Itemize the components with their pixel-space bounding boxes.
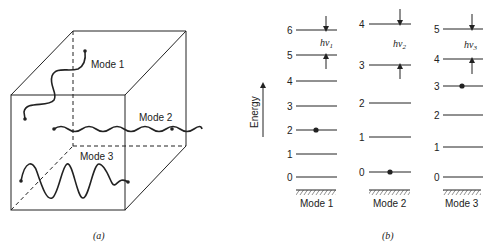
mode-2-label: Mode 2 (139, 112, 173, 123)
svg-text:0: 0 (434, 172, 440, 183)
svg-text:2: 2 (359, 98, 365, 109)
energy-axis: Energy (249, 85, 263, 137)
mode-2-levels (369, 9, 411, 172)
svg-text:4: 4 (359, 19, 365, 30)
svg-text:2: 2 (287, 125, 293, 136)
mode-1-column-label: Mode 1 (300, 198, 334, 209)
caption-a: (a) (93, 230, 105, 242)
svg-text:1: 1 (434, 142, 440, 153)
mode-3-label: Mode 3 (80, 151, 114, 162)
mode-1-wave (23, 49, 87, 121)
svg-text:5: 5 (434, 24, 440, 35)
figure-canvas: Mode 1 Mode 2 Mode 3 (a) Energy 0 1 2 3 … (0, 0, 493, 251)
mode-2-ground-hatch (369, 190, 410, 195)
svg-text:1: 1 (359, 132, 365, 143)
mode-3-levels (443, 14, 483, 177)
mode-3-level-numbers: 0 1 2 3 4 5 (434, 24, 440, 183)
mode-3-quantum: hν3 (464, 39, 477, 52)
mode-1-occupied-dot (313, 127, 318, 132)
svg-text:4: 4 (434, 54, 440, 65)
svg-text:3: 3 (359, 60, 365, 71)
svg-text:5: 5 (287, 50, 293, 61)
svg-text:0: 0 (359, 167, 365, 178)
mode-1-quantum: hν1 (320, 37, 333, 50)
mode-1-ground-hatch (296, 190, 336, 195)
energy-axis-label: Energy (249, 96, 260, 128)
svg-text:0: 0 (287, 172, 293, 183)
mode-1-level-numbers: 0 1 2 3 4 5 6 (287, 25, 293, 183)
mode-2-column-label: Mode 2 (373, 198, 407, 209)
mode-2-wave (52, 127, 202, 132)
mode-3-occupied-dot (459, 83, 464, 88)
svg-text:3: 3 (287, 101, 293, 112)
mode-2-quantum: hν2 (393, 38, 406, 51)
mode-3-column-label: Mode 3 (445, 198, 479, 209)
mode-3-ground-hatch (443, 190, 481, 195)
svg-text:3: 3 (434, 81, 440, 92)
mode-1-label: Mode 1 (91, 59, 125, 70)
mode-3-wave (19, 164, 130, 198)
caption-b: (b) (382, 230, 394, 242)
svg-text:2: 2 (434, 110, 440, 121)
svg-text:6: 6 (287, 25, 293, 36)
mode-2-occupied-dot (387, 169, 392, 174)
svg-text:1: 1 (287, 149, 293, 160)
svg-text:4: 4 (287, 76, 293, 87)
mode-1-levels (296, 16, 337, 177)
mode-2-level-numbers: 0 1 2 3 4 (359, 19, 365, 178)
